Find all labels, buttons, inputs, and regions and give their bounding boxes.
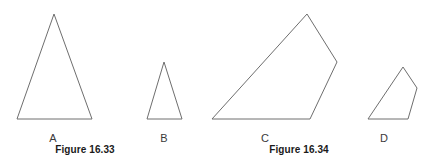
figure-caption-16-34: Figure 16.34 — [269, 144, 329, 155]
shape-b-triangle — [147, 62, 182, 119]
shape-label-b: B — [160, 132, 168, 144]
figure-caption-16-33: Figure 16.33 — [55, 144, 115, 155]
shape-label-a: A — [49, 132, 57, 144]
shape-label-d: D — [380, 132, 388, 144]
shape-a-triangle — [17, 14, 92, 119]
geometry-figures-canvas — [0, 0, 434, 163]
shape-label-c: C — [261, 132, 269, 144]
shape-c-quadrilateral — [212, 14, 337, 119]
shape-d-quadrilateral — [368, 67, 417, 119]
figure-page: A B C D Figure 16.33 Figure 16.34 — [0, 0, 434, 163]
